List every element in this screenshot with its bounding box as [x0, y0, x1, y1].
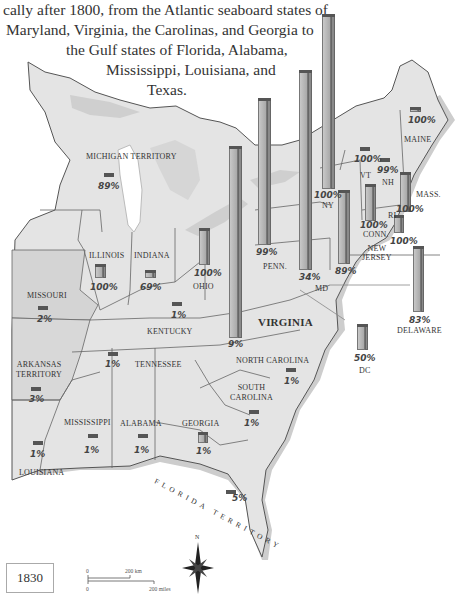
label-conn: CONN. — [363, 230, 389, 239]
pct-kentucky: 1% — [171, 310, 186, 320]
bar-delaware — [413, 246, 424, 312]
label-md: MD — [315, 284, 328, 293]
pct-michigan-territory: 89% — [98, 181, 120, 191]
pct-mississippi: 1% — [84, 445, 99, 455]
bar-georgia — [198, 432, 208, 443]
pct-md: 34% — [299, 272, 321, 282]
pct-nh: 99% — [377, 165, 399, 175]
label-vt: VT — [360, 171, 371, 180]
label-missouri: MISSOURI — [27, 291, 67, 300]
pct-ny: 100% — [314, 190, 342, 200]
label-michigan-territory: MICHIGAN TERRITORY — [86, 152, 177, 161]
pct-tennessee: 1% — [105, 359, 120, 369]
label-maine: MAINE — [404, 135, 431, 144]
pct-arkansas-territory: 3% — [29, 394, 44, 404]
pct-indiana: 69% — [140, 282, 162, 292]
label-virginia: VIRGINIA — [258, 316, 313, 328]
bar-indiana — [145, 270, 156, 278]
intro-line-4: Mississippi, Louisiana, and — [0, 60, 330, 80]
bar-virginia — [229, 146, 242, 338]
label-illinois: ILLINOIS — [89, 251, 124, 260]
pct-south-carolina: 1% — [244, 418, 259, 428]
bar-penn — [258, 98, 271, 245]
scale-zero-km: 0 — [86, 568, 89, 574]
label-indiana: INDIANA — [134, 251, 170, 260]
label-ny: NY — [322, 201, 334, 210]
pct-ohio: 100% — [194, 268, 222, 278]
pct-north-carolina: 1% — [284, 376, 299, 386]
label-ri: RI — [388, 211, 396, 220]
bar-tennessee — [108, 352, 118, 356]
label-tennessee: TENNESSEE — [135, 360, 182, 369]
pct-florida-territory: 5% — [232, 493, 247, 503]
pct-penn: 99% — [256, 247, 278, 257]
pct-dc: 50% — [354, 353, 376, 363]
scale-km-label: 200 km — [125, 568, 142, 574]
intro-line-5: Texas. — [0, 80, 330, 100]
bar-kentucky — [172, 302, 182, 306]
pct-ri: 100% — [390, 236, 418, 246]
bar-mississippi — [88, 434, 98, 438]
pct-mass: 100% — [396, 204, 424, 214]
bar-maine — [410, 107, 421, 112]
scale-mi-label: 200 miles — [149, 586, 171, 592]
bar-new-jersey — [338, 190, 350, 264]
label-penn: PENN. — [263, 262, 287, 271]
bar-md — [299, 70, 312, 270]
label-louisiana: LOUISIANA — [19, 468, 64, 477]
label-kentucky: KENTUCKY — [147, 327, 193, 336]
scale-zero-mi: 0 — [86, 586, 89, 592]
bar-illinois — [95, 264, 106, 278]
compass-north-label: N — [195, 534, 200, 540]
bar-north-carolina — [286, 368, 296, 372]
label-ohio: OHIO — [193, 282, 214, 291]
label-dc: DC — [359, 366, 371, 375]
intro-line-3: the Gulf states of Florida, Alabama, — [0, 40, 330, 60]
bar-conn — [365, 184, 376, 221]
pct-georgia: 1% — [196, 446, 211, 456]
pct-alabama: 1% — [134, 445, 149, 455]
pct-maine: 100% — [408, 115, 436, 125]
bar-ohio — [199, 228, 210, 265]
label-delaware: DELAWARE — [397, 326, 442, 335]
intro-line-1: cally after 1800, from the Atlantic seab… — [0, 0, 330, 20]
bar-alabama — [138, 434, 148, 438]
bar-louisiana — [33, 441, 43, 445]
label-georgia: GEORGIA — [182, 419, 219, 428]
pct-illinois: 100% — [90, 282, 118, 292]
pct-new-jersey: 89% — [335, 266, 357, 276]
label-new-jersey: NEWJERSEY — [362, 244, 392, 262]
bar-arkansas — [31, 387, 41, 391]
bar-michigan — [104, 173, 114, 177]
pct-missouri: 2% — [37, 314, 52, 324]
label-arkansas-territory: ARKANSASTERRITORY — [16, 360, 62, 380]
bar-missouri — [38, 306, 48, 310]
bar-ny — [322, 14, 335, 189]
label-alabama: ALABAMA — [120, 419, 162, 428]
pct-delaware: 83% — [409, 315, 431, 325]
intro-text: cally after 1800, from the Atlantic seab… — [0, 0, 330, 100]
label-mississippi: MISSISSIPPI — [64, 418, 111, 427]
bar-dc — [357, 324, 368, 350]
pct-conn: 100% — [360, 220, 388, 230]
scale-bar — [88, 575, 154, 584]
compass-rose-icon — [182, 542, 214, 594]
pct-louisiana: 1% — [30, 449, 45, 459]
bar-south-carolina — [249, 410, 259, 414]
label-nh: NH — [382, 178, 394, 187]
pct-vt: 100% — [354, 154, 382, 164]
label-mass: MASS. — [416, 190, 441, 199]
pct-virginia: 9% — [228, 339, 243, 349]
intro-line-2: Maryland, Virginia, the Carolinas, and G… — [0, 20, 330, 40]
bar-vt — [360, 147, 370, 151]
label-north-carolina: NORTH CAROLINA — [236, 356, 309, 365]
year-box: 1830 — [6, 563, 54, 593]
label-south-carolina: SOUTHCAROLINA — [230, 383, 273, 403]
